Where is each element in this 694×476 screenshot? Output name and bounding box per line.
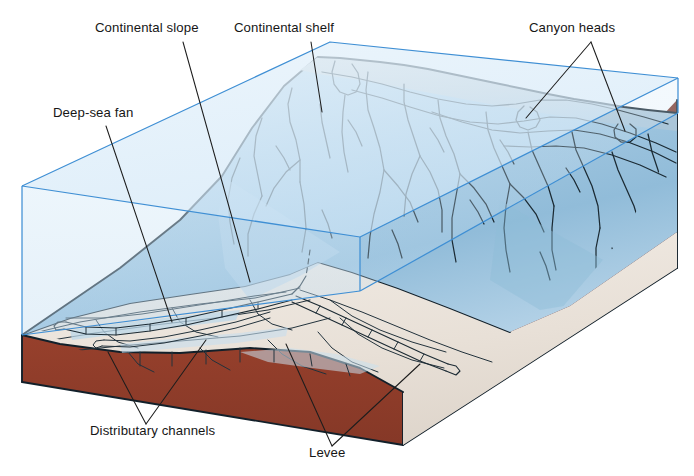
label-levee: Levee bbox=[309, 445, 345, 460]
label-continental-shelf: Continental shelf bbox=[234, 20, 334, 35]
label-continental-slope: Continental slope bbox=[95, 20, 199, 35]
label-distributary-channels: Distributary channels bbox=[90, 423, 216, 438]
label-canyon-heads: Canyon heads bbox=[529, 20, 616, 35]
label-deep-sea-fan: Deep-sea fan bbox=[53, 105, 133, 120]
deep-sea-fan-diagram: Continental slope Continental shelf Cany… bbox=[0, 0, 694, 476]
